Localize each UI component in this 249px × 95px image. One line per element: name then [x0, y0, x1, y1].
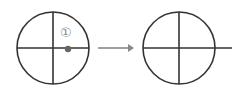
- point-label: ①: [60, 26, 72, 39]
- arrow-right-icon: [98, 44, 134, 52]
- before-circle-group: [17, 12, 89, 84]
- diagram-canvas: [0, 0, 249, 95]
- point-marker: [65, 46, 71, 52]
- after-circle-group: [143, 12, 232, 84]
